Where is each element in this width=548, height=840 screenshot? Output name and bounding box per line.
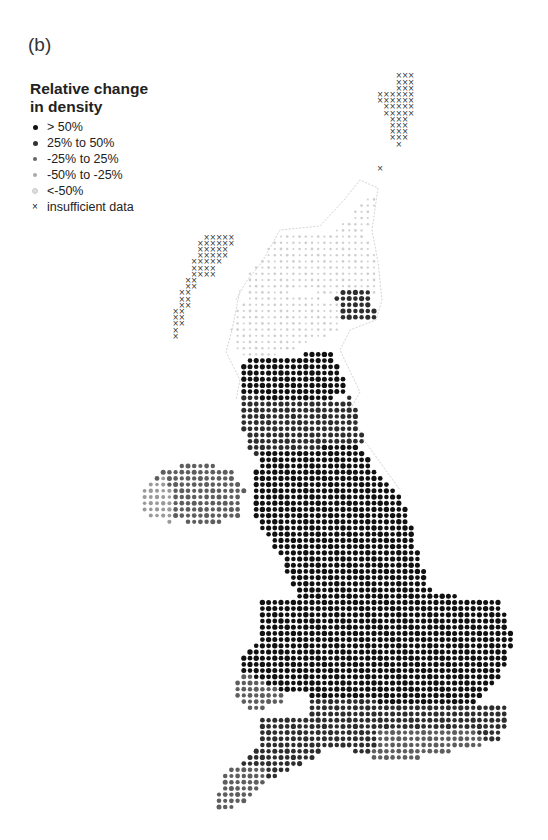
svg-text:×: × <box>395 140 402 149</box>
region-south-coast <box>372 730 482 760</box>
svg-text:×: × <box>222 251 229 260</box>
svg-text:×: × <box>209 270 216 279</box>
svg-text:×: × <box>408 109 415 118</box>
svg-text:×: × <box>191 282 198 291</box>
region-north-england <box>254 445 433 599</box>
region-central-highlands <box>230 297 338 356</box>
svg-text:×: × <box>185 301 192 310</box>
region-northern-ireland-west <box>143 477 172 524</box>
region-south-east <box>309 699 506 754</box>
region-grampian <box>334 290 376 320</box>
svg-text:×: × <box>377 164 384 173</box>
region-shetland-outlier: × <box>377 164 384 173</box>
svg-text:×: × <box>402 133 409 142</box>
svg-text:×: × <box>172 332 179 341</box>
region-central-belt <box>241 352 346 401</box>
region-shetland-orkney: ××××××××××××××××××××××××××××××××××××××××… <box>377 71 415 148</box>
density-change-map: ××××××××××××××××××××××××××××××××××××××××… <box>0 0 548 840</box>
svg-text:×: × <box>228 239 235 248</box>
svg-text:×: × <box>216 257 223 266</box>
region-outer-hebrides: ××××××××××××××××××××××××××××××××××××××××… <box>172 233 235 341</box>
region-southern-uplands <box>241 395 364 456</box>
region-wales-south <box>235 674 283 710</box>
region-cornwall <box>217 767 265 809</box>
region-midlands-east <box>303 594 513 705</box>
region-south-west <box>241 718 320 779</box>
svg-text:×: × <box>178 319 185 328</box>
region-north-highlands-sparse <box>249 198 376 300</box>
